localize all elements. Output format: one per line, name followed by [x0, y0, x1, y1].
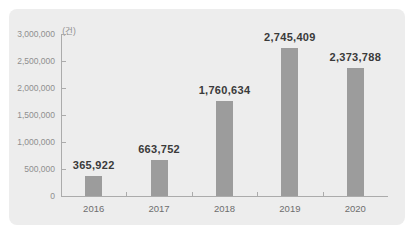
bar-value-label: 663,752 [99, 143, 219, 155]
category-label: 2018 [195, 203, 255, 214]
bar [216, 101, 233, 196]
y-tick-label: 0 [11, 192, 55, 201]
y-tick-label: 1,500,000 [11, 111, 55, 120]
y-tick-mark [62, 88, 66, 89]
y-tick-mark [62, 115, 66, 116]
x-tick-mark [257, 192, 258, 196]
x-tick-mark [192, 192, 193, 196]
y-tick-label: 2,000,000 [11, 84, 55, 93]
x-tick-mark [323, 192, 324, 196]
y-tick-mark [62, 142, 66, 143]
bar-value-label: 2,373,788 [295, 51, 415, 63]
category-label: 2020 [325, 203, 385, 214]
bar [85, 176, 102, 196]
category-label: 2019 [260, 203, 320, 214]
chart-card: (건) 0500,0001,000,0001,500,0002,000,0002… [9, 9, 405, 225]
y-tick-label: 3,000,000 [11, 30, 55, 39]
y-tick-label: 2,500,000 [11, 57, 55, 66]
y-tick-mark [62, 61, 66, 62]
x-tick-mark [126, 192, 127, 196]
bar [281, 48, 298, 196]
y-tick-label: 1,000,000 [11, 138, 55, 147]
category-label: 2017 [129, 203, 189, 214]
bar-value-label: 365,922 [34, 159, 154, 171]
bar [347, 68, 364, 196]
x-axis-line [61, 196, 388, 197]
y-tick-mark [62, 34, 66, 35]
bar-value-label: 2,745,409 [230, 31, 350, 43]
bar [151, 160, 168, 196]
category-label: 2016 [64, 203, 124, 214]
bar-value-label: 1,760,634 [165, 84, 285, 96]
